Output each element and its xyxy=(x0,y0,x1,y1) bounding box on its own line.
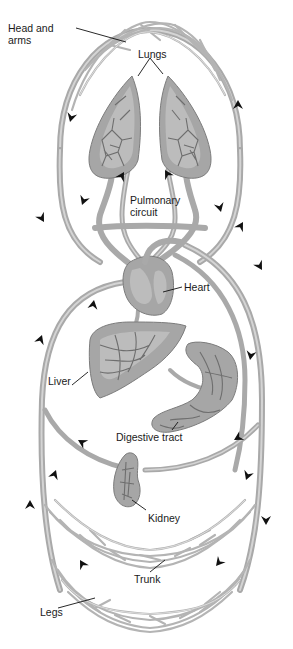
label-heart: Heart xyxy=(184,281,210,293)
head-arms-capillary-bed xyxy=(60,22,240,150)
label-head-and-arms-line2: arms xyxy=(8,34,54,46)
arrow-icon xyxy=(253,260,266,273)
arrow-icon xyxy=(261,516,271,525)
label-head-and-arms: Head and arms xyxy=(8,22,54,46)
arrow-icon xyxy=(212,556,225,569)
label-pulmonary-line2: circuit xyxy=(130,206,180,218)
arrow-icon xyxy=(65,112,77,123)
trunk-capillary-bed xyxy=(45,500,255,568)
label-legs: Legs xyxy=(40,606,63,618)
label-pulmonary-circuit: Pulmonary circuit xyxy=(130,194,180,218)
arrow-icon xyxy=(245,350,256,361)
label-head-and-arms-line1: Head and xyxy=(8,22,54,34)
left-lung xyxy=(89,76,141,178)
label-lungs: Lungs xyxy=(138,48,167,60)
arrow-icon xyxy=(35,212,48,225)
arrow-icon xyxy=(234,220,247,233)
arrow-icon xyxy=(34,333,46,345)
label-kidney: Kidney xyxy=(148,512,180,524)
kidney xyxy=(114,453,140,507)
arrow-icon xyxy=(77,195,89,207)
label-digestive-tract: Digestive tract xyxy=(116,431,183,443)
leader-liver xyxy=(72,372,88,385)
right-lung xyxy=(160,76,212,178)
label-trunk: Trunk xyxy=(134,573,160,585)
arrow-icon xyxy=(25,500,35,509)
leader-lungs xyxy=(138,58,163,76)
label-liver: Liver xyxy=(48,375,71,387)
liver xyxy=(89,322,186,398)
arrow-icon xyxy=(214,202,226,213)
arrow-icon xyxy=(76,558,89,571)
label-pulmonary-line1: Pulmonary xyxy=(130,194,180,206)
arrow-icon xyxy=(88,299,99,310)
arrow-icon xyxy=(241,470,253,482)
circulatory-diagram xyxy=(0,0,293,649)
arrow-icon xyxy=(48,468,60,480)
